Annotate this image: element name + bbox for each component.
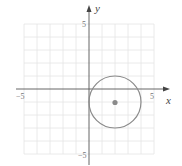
coordinate-plane: y x −5 5 5 −5 — [0, 0, 182, 166]
y-axis-arrow-icon — [87, 5, 92, 12]
tick-y-min: −5 — [78, 151, 87, 160]
x-axis-arrow-icon — [163, 87, 170, 92]
tick-y-max: 5 — [82, 20, 86, 29]
tick-x-max: 5 — [150, 92, 154, 101]
tick-x-min: −5 — [16, 92, 25, 101]
x-axis-label: x — [165, 94, 171, 106]
center-point — [112, 100, 117, 105]
y-axis-label: y — [94, 2, 100, 14]
